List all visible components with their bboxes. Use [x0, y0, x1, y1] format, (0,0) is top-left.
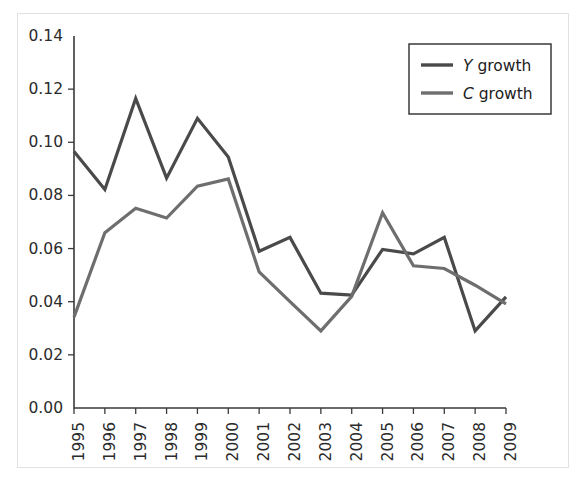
- y-tick-label: 0.00: [28, 399, 63, 417]
- x-tick-label: 1997: [132, 422, 150, 461]
- x-tick-label: 2007: [440, 422, 458, 461]
- x-tick-label: 1998: [163, 422, 181, 461]
- chart-series: [74, 98, 506, 331]
- x-tick-label: 1995: [70, 422, 88, 461]
- x-tick-label: 2002: [286, 422, 304, 461]
- figure-container: 0.000.020.040.060.080.100.120.14 1995199…: [0, 0, 587, 481]
- x-tick-label: 1999: [193, 422, 211, 461]
- y-tick-label: 0.10: [28, 133, 63, 151]
- y-tick-label: 0.12: [28, 80, 63, 98]
- series-line-y-growth: [74, 98, 506, 331]
- x-tick-label: 2008: [471, 422, 489, 461]
- y-tick-label: 0.02: [28, 346, 63, 364]
- legend-label-c-growth: C growth: [463, 84, 533, 102]
- x-tick-label: 1996: [101, 422, 119, 461]
- line-chart: 0.000.020.040.060.080.100.120.14 1995199…: [0, 0, 587, 481]
- y-tick-label: 0.08: [28, 186, 63, 204]
- x-axis-ticks: 1995199619971998199920002001200220032004…: [70, 408, 520, 461]
- x-tick-label: 2000: [224, 422, 242, 461]
- chart-legend: Y growthC growth: [409, 44, 551, 114]
- x-tick-label: 2006: [409, 422, 427, 461]
- y-tick-label: 0.06: [28, 240, 63, 258]
- x-tick-label: 2001: [255, 422, 273, 461]
- series-line-c-growth: [74, 179, 506, 331]
- x-tick-label: 2003: [317, 422, 335, 461]
- x-tick-label: 2004: [348, 422, 366, 461]
- y-tick-label: 0.04: [28, 293, 63, 311]
- x-tick-label: 2005: [379, 422, 397, 461]
- legend-frame: [409, 44, 551, 114]
- y-axis-ticks: 0.000.020.040.060.080.100.120.14: [28, 27, 74, 417]
- x-tick-label: 2009: [502, 422, 520, 461]
- legend-label-y-growth: Y growth: [463, 56, 531, 74]
- y-tick-label: 0.14: [28, 27, 63, 45]
